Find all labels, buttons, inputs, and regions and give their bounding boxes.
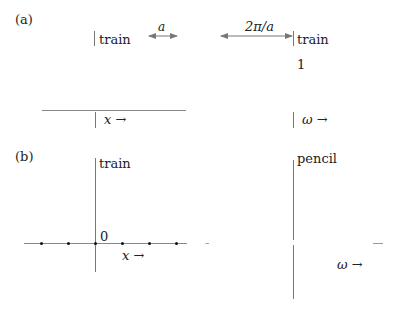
train-label-b: train [99, 157, 131, 170]
pencil-label: pencil [297, 152, 337, 165]
panel-b-label: (b) [15, 150, 33, 163]
y-axis-b [95, 158, 96, 272]
train-dot [175, 242, 178, 245]
x-axis-label-b: x → [122, 249, 144, 262]
train-dot [121, 242, 124, 245]
train-dot [94, 242, 97, 245]
right-dash [373, 243, 383, 244]
train-dot [40, 242, 43, 245]
origin-label: 0 [100, 230, 108, 243]
left-dash: - [205, 236, 209, 249]
omega-axis-label-b: ω → [337, 258, 363, 271]
train-dot [148, 242, 151, 245]
pencil-line-lower [293, 245, 294, 299]
pencil-line-upper [293, 160, 294, 240]
train-dot [67, 242, 70, 245]
